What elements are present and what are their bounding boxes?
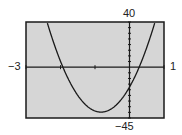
ymin-label: −45 bbox=[115, 121, 134, 132]
screen-frame bbox=[26, 22, 164, 118]
ymax-label: 40 bbox=[123, 8, 135, 19]
graph-screen bbox=[0, 0, 182, 135]
xmin-label: −3 bbox=[8, 61, 21, 72]
xmax-label: 1 bbox=[170, 61, 176, 72]
